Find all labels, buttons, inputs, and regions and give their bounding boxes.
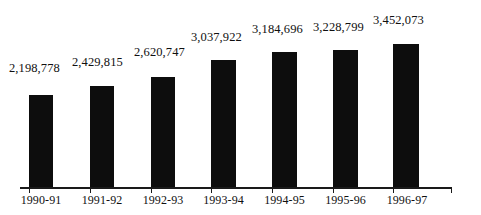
value-label-1993-94: 3,037,922 xyxy=(191,31,242,44)
bar-chart: 2,198,778 2,429,815 2,620,747 3,037,922 … xyxy=(0,0,481,215)
bar-1993-94 xyxy=(211,60,236,187)
bar-1994-95 xyxy=(272,52,297,187)
category-label-1992-93: 1992-93 xyxy=(133,194,193,206)
category-label-1990-91: 1990-91 xyxy=(11,194,71,206)
value-label-1996-97: 3,452,073 xyxy=(373,14,424,27)
category-label-1995-96: 1995-96 xyxy=(315,194,376,206)
plot-area: 2,198,778 2,429,815 2,620,747 3,037,922 … xyxy=(0,0,481,215)
value-label-1994-95: 3,184,696 xyxy=(252,23,303,36)
value-label-1991-92: 2,429,815 xyxy=(72,56,123,69)
bar-1992-93 xyxy=(151,77,175,187)
bar-1990-91 xyxy=(29,95,53,187)
bar-1991-92 xyxy=(90,86,114,187)
category-label-1991-92: 1991-92 xyxy=(72,194,132,206)
value-label-1992-93: 2,620,747 xyxy=(134,46,185,59)
x-axis-line xyxy=(20,187,452,189)
bar-1996-97 xyxy=(393,44,419,187)
category-label-1994-95: 1994-95 xyxy=(254,194,315,206)
value-label-1995-96: 3,228,799 xyxy=(313,21,364,34)
category-label-1996-97: 1996-97 xyxy=(376,194,438,206)
category-label-1993-94: 1993-94 xyxy=(193,194,254,206)
bar-1995-96 xyxy=(333,50,358,187)
axis-tick-end xyxy=(451,187,452,193)
value-label-1990-91: 2,198,778 xyxy=(9,62,60,75)
